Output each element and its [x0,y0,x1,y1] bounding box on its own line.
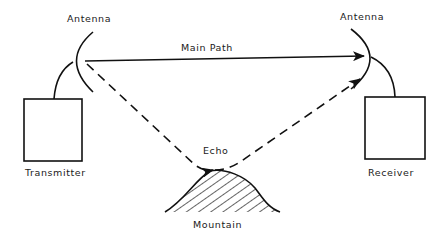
antenna-left-label: Antenna [67,13,111,24]
echo-diagram: Antenna Transmitter Antenna Receiver Mai… [0,0,447,239]
echo-incident-path [87,64,213,170]
echo-reflected-path [215,79,360,170]
antenna-right-label: Antenna [340,11,384,22]
left-antenna-dish-icon [77,32,94,92]
transmitter-feed-line [54,62,73,99]
right-antenna-dish-icon [351,29,370,89]
receive-antenna [351,29,395,97]
transmit-antenna [54,32,93,99]
receiver-feed-line [371,57,395,97]
mountain-shape [160,165,285,215]
receiver-box [365,97,425,159]
echo-label: Echo [203,145,228,156]
main-path-label: Main Path [181,42,233,53]
main-path-arrow [85,56,364,61]
transmitter-label: Transmitter [24,167,86,178]
transmitter-box [24,99,82,161]
receiver-label: Receiver [368,167,414,178]
mountain-label: Mountain [193,219,242,230]
